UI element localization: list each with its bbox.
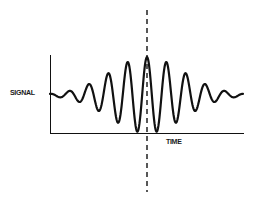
signal-axis-label: SIGNAL <box>10 89 35 96</box>
time-axis-label: TIME <box>166 138 182 145</box>
interferogram-diagram <box>0 0 257 198</box>
